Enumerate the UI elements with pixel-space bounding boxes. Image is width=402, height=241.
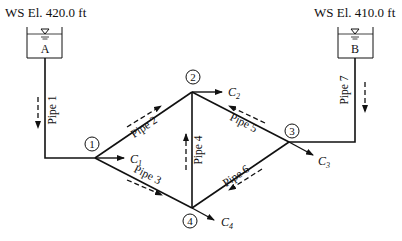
node-4: 4: [183, 214, 197, 228]
outflow-c4-label: C4: [221, 215, 233, 231]
node-1: 1: [85, 137, 99, 151]
reservoir-b: WS El. 410.0 ft B: [314, 5, 396, 58]
outflow-c1-label: C1: [130, 152, 142, 168]
reservoir-a: WS El. 420.0 ft A: [5, 5, 87, 58]
pipe-5-label: Pipe 5: [228, 110, 260, 135]
pipe-1-label: Pipe 1: [46, 95, 59, 124]
svg-text:2: 2: [190, 71, 196, 83]
reservoir-b-elevation: WS El. 410.0 ft: [314, 5, 396, 20]
pipe-4-label: Pipe 4: [192, 135, 205, 164]
reservoir-a-elevation: WS El. 420.0 ft: [5, 5, 87, 20]
svg-text:3: 3: [289, 125, 295, 137]
outflow-c2-label: C2: [228, 85, 240, 101]
svg-text:1: 1: [89, 138, 95, 150]
svg-text:4: 4: [187, 215, 193, 227]
reservoir-b-label: B: [351, 42, 359, 56]
water-surface-icon: [351, 29, 359, 34]
outflow-c3-arrow-icon: [289, 142, 313, 155]
water-surface-icon: [41, 29, 49, 34]
node-3: 3: [285, 124, 299, 138]
pipe-network-diagram: WS El. 420.0 ft A WS El. 410.0 ft B: [0, 0, 402, 241]
outflow-c3-label: C3: [318, 154, 330, 170]
pipe-7-label: Pipe 7: [338, 75, 351, 104]
reservoir-a-label: A: [41, 42, 50, 56]
node-2: 2: [186, 70, 200, 84]
pipe-6-label: Pipe 6: [220, 162, 252, 189]
